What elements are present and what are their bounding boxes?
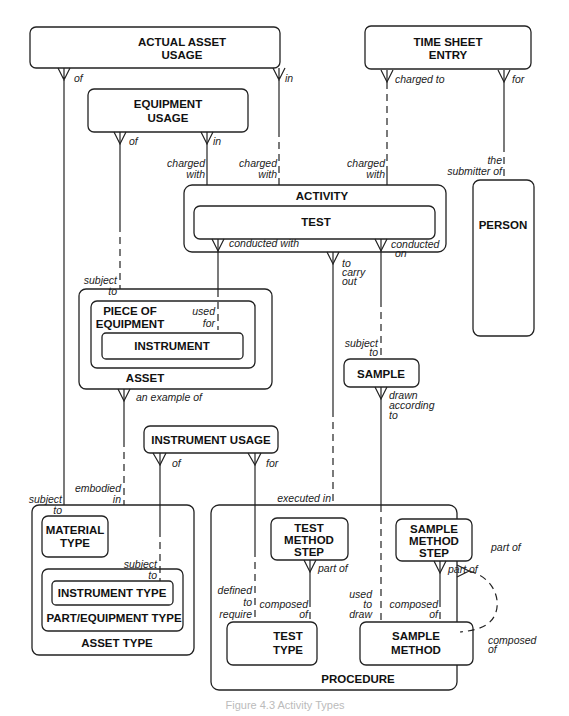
rel-aau-of-line <box>58 68 70 505</box>
rel-label: part of <box>490 541 522 553</box>
entity-instrument-type: INSTRUMENT TYPE <box>52 581 173 605</box>
rel-label: with <box>366 168 385 180</box>
entity-label: TEST <box>301 216 330 228</box>
entity-test-type: TEST TYPE <box>227 622 317 665</box>
er-diagram: ACTUAL ASSET USAGE TIME SHEET ENTRY EQUI… <box>0 0 569 716</box>
rel-label: to <box>389 409 398 421</box>
entity-label: TIME SHEET <box>413 36 482 48</box>
entity-test: TEST <box>194 206 435 239</box>
rel-label: charged to <box>395 73 445 85</box>
entity-label: INSTRUMENT USAGE <box>151 434 271 446</box>
rel-label: of <box>74 72 84 84</box>
rel-label: part of <box>447 563 479 575</box>
entity-label: SAMPLE <box>357 368 405 380</box>
entity-label: PIECE OF <box>103 305 157 317</box>
entity-equipment-usage: EQUIPMENT USAGE <box>88 89 248 132</box>
rel-label: an example of <box>136 391 203 403</box>
entity-label: STEP <box>419 547 449 559</box>
rel-label: of <box>299 608 309 620</box>
rel-label: with <box>258 168 277 180</box>
entity-actual-asset-usage: ACTUAL ASSET USAGE <box>30 27 280 68</box>
rel-label: for <box>512 73 525 85</box>
figure-caption: Figure 4.3 Activity Types <box>225 699 345 711</box>
entity-label: ACTIVITY <box>296 190 349 202</box>
entity-instrument-usage: INSTRUMENT USAGE <box>144 426 278 453</box>
entity-label: METHOD <box>409 535 459 547</box>
entity-sample-method: SAMPLE METHOD <box>360 622 473 665</box>
entity-material-type: MATERIAL TYPE <box>42 516 108 557</box>
entity-label: TYPE <box>273 644 303 656</box>
entity-person: PERSON <box>473 180 534 336</box>
rel-label: in <box>113 493 121 505</box>
rel-label: used <box>192 305 216 317</box>
rel-label: to <box>108 285 117 297</box>
entity-label: STEP <box>294 546 324 558</box>
rel-label: of <box>488 643 498 655</box>
entity-label: USAGE <box>148 112 189 124</box>
entity-label: ACTUAL ASSET <box>138 36 226 48</box>
rel-label: for <box>266 457 279 469</box>
rel-label: submitter of <box>447 165 503 177</box>
rel-label: to <box>53 504 62 516</box>
entity-label: INSTRUMENT TYPE <box>58 587 167 599</box>
rel-label: to <box>369 346 378 358</box>
entity-label: EQUIPMENT <box>134 98 202 110</box>
rel-label: executed in <box>277 492 331 504</box>
rel-label: in <box>285 72 293 84</box>
rel-label: in <box>213 135 221 147</box>
entity-label: SAMPLE <box>392 630 440 642</box>
entity-time-sheet-entry: TIME SHEET ENTRY <box>365 26 531 69</box>
rel-label: part of <box>317 562 349 574</box>
entity-label: INSTRUMENT <box>134 340 209 352</box>
entity-label: PROCEDURE <box>321 673 395 685</box>
rel-label: for <box>203 317 216 329</box>
entity-label: TEST <box>273 630 302 642</box>
rel-to-carry-out-line <box>327 252 339 505</box>
entity-label: TYPE <box>60 537 90 549</box>
entity-label: EQUIPMENT <box>96 318 164 330</box>
entity-label: PERSON <box>479 219 528 231</box>
entity-label: TEST <box>294 522 323 534</box>
entity-label: SAMPLE <box>410 523 458 535</box>
entity-instrument: INSTRUMENT <box>102 333 243 359</box>
rel-label: with <box>186 168 205 180</box>
entity-sample-method-step: SAMPLE METHOD STEP <box>396 519 472 561</box>
entity-label: ENTRY <box>429 49 468 61</box>
rel-eu-of-line <box>114 132 126 289</box>
rel-label: conducted with <box>229 237 299 249</box>
entity-label: ASSET TYPE <box>81 637 153 649</box>
rel-label: to <box>243 596 252 608</box>
entity-test-method-step: TEST METHOD STEP <box>271 518 348 560</box>
rel-label: of <box>172 457 182 469</box>
entity-label: ASSET <box>126 372 164 384</box>
rel-label: defined <box>218 584 254 596</box>
entity-label: MATERIAL <box>46 524 105 536</box>
rel-label: draw <box>349 608 373 620</box>
rel-label: on <box>395 247 407 259</box>
rel-label: require <box>219 608 252 620</box>
rel-label: to <box>148 569 157 581</box>
entity-label: PART/EQUIPMENT TYPE <box>46 612 182 624</box>
entity-label: USAGE <box>162 49 203 61</box>
entity-label: METHOD <box>284 534 334 546</box>
entity-sample: SAMPLE <box>344 359 419 387</box>
rel-label: of <box>429 608 439 620</box>
rel-label: out <box>342 275 358 287</box>
rel-label: of <box>129 135 139 147</box>
entity-label: METHOD <box>391 644 441 656</box>
